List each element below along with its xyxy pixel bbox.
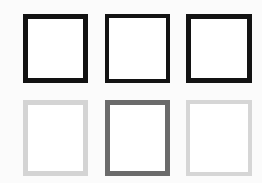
square-bottom-left (23, 100, 88, 176)
square-top-center (105, 14, 170, 83)
square-bottom-right (186, 100, 252, 176)
square-top-left (23, 14, 88, 83)
square-bottom-center (105, 100, 170, 176)
square-top-right (186, 14, 252, 83)
shape-grid-canvas (0, 0, 262, 183)
